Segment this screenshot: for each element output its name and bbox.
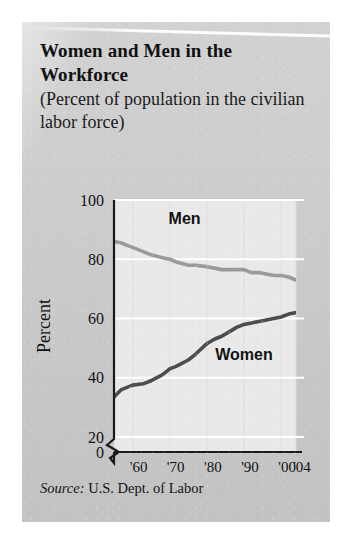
annotation-men: Men [169,210,201,227]
y-axis-label: Percent [34,299,54,353]
y-tick-40: 40 [88,369,104,386]
x-tick-04: '04 [293,459,311,472]
source-label: Source: [40,480,85,496]
chart-subtitle: (Percent of population in the civilian l… [40,88,320,134]
screenshot-root: Women and Men in the Workforce (Percent … [0,0,350,551]
x-tick-60: '60 [130,459,148,472]
y-tick-80: 80 [88,251,104,268]
y-axis-tick-labels: 020406080100 [80,192,104,461]
x-tick-80: '80 [204,459,222,472]
source-value: U.S. Dept. of Labor [88,480,203,496]
chart-svg: 020406080100 '60'70'80'90'00'04 Percent … [22,152,330,472]
chart-card: Women and Men in the Workforce (Percent … [22,22,330,522]
y-tick-60: 60 [88,310,104,327]
source-note: Source: U.S. Dept. of Labor [40,480,203,497]
scan-streak [22,26,330,38]
x-tick-70: '70 [167,459,185,472]
plot-area-background [114,200,296,452]
annotation-women: Women [215,346,272,363]
line-chart: 020406080100 '60'70'80'90'00'04 Percent … [22,152,330,472]
page-title: Women and Men in the Workforce [40,39,310,87]
x-axis-tick-labels: '60'70'80'90'00'04 [130,459,312,472]
y-tick-100: 100 [80,192,104,209]
y-tick-0: 0 [96,444,104,461]
x-tick-90: '90 [241,459,259,472]
y-tick-20: 20 [88,429,104,446]
